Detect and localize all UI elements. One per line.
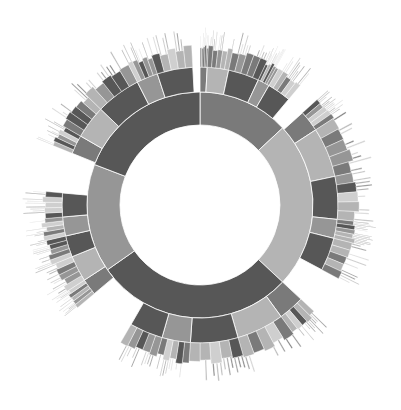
sunburst-segment-l2[interactable] [62, 193, 87, 217]
sunburst-segment-l4[interactable] [100, 64, 109, 76]
sunburst-chart [0, 0, 401, 410]
sunburst-segment-l4[interactable] [142, 42, 149, 59]
sunburst-segment-l4[interactable] [213, 39, 215, 50]
sunburst-segment-l4[interactable] [122, 50, 129, 63]
sunburst-ring-1 [87, 92, 313, 318]
sunburst-segment-l4[interactable] [23, 212, 44, 214]
sunburst-segment-l4[interactable] [177, 33, 180, 51]
sunburst-segment-l4[interactable] [220, 363, 223, 376]
sunburst-segment-l4[interactable] [355, 212, 369, 214]
sunburst-segment-l4[interactable] [249, 356, 255, 372]
sunburst-segment-l4[interactable] [48, 126, 59, 132]
sunburst-segment-l3[interactable] [189, 343, 200, 362]
sunburst-segment-l4[interactable] [299, 328, 305, 335]
sunburst-segment-l4[interactable] [278, 340, 286, 352]
sunburst-segment-l4[interactable] [354, 219, 373, 222]
sunburst-segment-l4[interactable] [356, 188, 368, 190]
sunburst-segment-l4[interactable] [30, 208, 44, 209]
sunburst-segment-l4[interactable] [155, 35, 161, 55]
sunburst-segment-l4[interactable] [351, 152, 358, 156]
sunburst-segment-l4[interactable] [352, 155, 361, 159]
sunburst-segment-l3[interactable] [200, 343, 211, 361]
sunburst-segment-l4[interactable] [351, 246, 366, 251]
sunburst-segment-l4[interactable] [346, 140, 365, 148]
sunburst-segment-l4[interactable] [58, 289, 66, 294]
sunburst-segment-l4[interactable] [216, 363, 219, 381]
sunburst-segment-l4[interactable] [176, 363, 178, 369]
sunburst-segment-l4[interactable] [157, 354, 162, 369]
sunburst-segment-l4[interactable] [238, 357, 242, 368]
sunburst-segment-l4[interactable] [213, 364, 215, 376]
sunburst-segment-l4[interactable] [25, 193, 45, 195]
sunburst-segment-l4[interactable] [179, 364, 181, 378]
sunburst-segment-l4[interactable] [345, 140, 354, 145]
sunburst-segment-l4[interactable] [215, 32, 217, 51]
sunburst-segment-l4[interactable] [351, 168, 362, 172]
sunburst-segment-l4[interactable] [344, 263, 358, 269]
sunburst-segment-l4[interactable] [33, 191, 46, 193]
sunburst-segment-l3[interactable] [338, 202, 359, 212]
sunburst-segment-l4[interactable] [180, 39, 182, 50]
sunburst-segment-l4[interactable] [317, 91, 328, 101]
sunburst-segment-l3[interactable] [338, 192, 359, 202]
sunburst-segment-l4[interactable] [205, 360, 207, 380]
sunburst-segment-l2[interactable] [311, 176, 338, 219]
sunburst-segment-l4[interactable] [26, 203, 46, 204]
sunburst-segment-l4[interactable] [27, 201, 42, 202]
sunburst-segment-l4[interactable] [290, 65, 301, 79]
sunburst-segment-l4[interactable] [222, 32, 225, 50]
sunburst-segment-l3[interactable] [46, 192, 63, 198]
sunburst-segment-l4[interactable] [26, 228, 46, 232]
sunburst-segment-l4[interactable] [230, 357, 234, 368]
sunburst-segment-l4[interactable] [26, 207, 45, 208]
sunburst-segment-l4[interactable] [61, 104, 72, 113]
sunburst-segment-l4[interactable] [210, 37, 211, 46]
sunburst-segment-l4[interactable] [273, 347, 279, 356]
sunburst-segment-l2[interactable] [190, 314, 238, 343]
sunburst-segment-l4[interactable] [42, 259, 50, 263]
sunburst-segment-l3[interactable] [45, 202, 62, 207]
sunburst-segment-l4[interactable] [292, 335, 302, 348]
sunburst-segment-l4[interactable] [304, 323, 310, 329]
sunburst-segment-l3[interactable] [44, 207, 62, 213]
sunburst-segment-l4[interactable] [259, 45, 265, 57]
sunburst-segment-l4[interactable] [232, 39, 235, 49]
sunburst-segment-l4[interactable] [359, 209, 369, 211]
sunburst-segment-l4[interactable] [45, 118, 65, 129]
sunburst-segment-l4[interactable] [298, 68, 311, 84]
sunburst-segment-l4[interactable] [227, 358, 231, 376]
sunburst-segment-l4[interactable] [130, 43, 139, 63]
sunburst-segment-l4[interactable] [352, 171, 365, 175]
sunburst-segment-l4[interactable] [212, 31, 214, 46]
sunburst-segment-l4[interactable] [48, 134, 55, 138]
sunburst-segment-l4[interactable] [334, 112, 347, 121]
sunburst-segment-l4[interactable] [356, 184, 372, 187]
sunburst-segment-l4[interactable] [223, 358, 226, 369]
sunburst-segment-l4[interactable] [358, 195, 365, 197]
sunburst-segment-l4[interactable] [39, 256, 49, 260]
sunburst-segment-l4[interactable] [356, 181, 370, 184]
sunburst-segment-l4[interactable] [353, 177, 370, 181]
sunburst-segment-l4[interactable] [30, 221, 45, 223]
sunburst-segment-l4[interactable] [141, 351, 147, 365]
sunburst-segment-l4[interactable] [54, 279, 62, 284]
sunburst-segment-l4[interactable] [123, 45, 131, 62]
sunburst-segment-l4[interactable] [23, 199, 43, 200]
sunburst-segment-l4[interactable] [234, 358, 239, 373]
sunburst-segment-l4[interactable] [38, 137, 54, 144]
sunburst-segment-l4[interactable] [339, 277, 350, 283]
sunburst-segment-l4[interactable] [286, 339, 293, 349]
sunburst-segment-l4[interactable] [241, 356, 245, 368]
sunburst-segment-l4[interactable] [33, 210, 45, 211]
sunburst-segment-l4[interactable] [147, 38, 153, 55]
sunburst-segment-l4[interactable] [37, 138, 54, 145]
sunburst-segment-l4[interactable] [299, 73, 309, 85]
sunburst-segment-l4[interactable] [139, 49, 143, 59]
